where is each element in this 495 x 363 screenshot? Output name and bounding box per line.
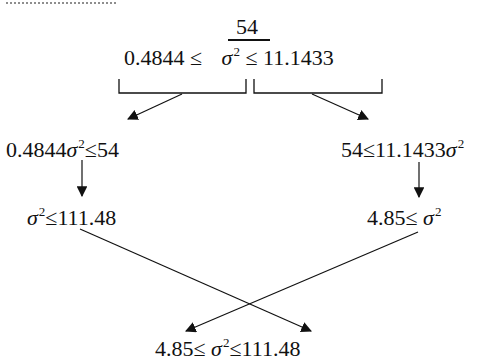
arrow-left-branch (128, 94, 182, 119)
sigma-symbol: σ (211, 336, 222, 361)
sigma-symbol: σ (27, 205, 38, 230)
right-step1-expression: 54≤11.1433σ2 (341, 137, 464, 161)
arrow-right-branch (312, 94, 368, 119)
result-expression: 4.85≤ σ2≤111.48 (155, 336, 300, 360)
sigma-symbol: σ (446, 137, 457, 162)
left-step1-expression: 0.4844σ2≤54 (6, 137, 119, 161)
left-bracket (119, 79, 246, 93)
sigma-symbol: σ (67, 137, 78, 162)
arrow-left-to-result (80, 229, 311, 331)
arrow-right-to-result (186, 232, 418, 331)
right-bracket (254, 79, 382, 93)
connector-lines (0, 0, 495, 363)
sigma-symbol: σ (423, 205, 434, 230)
right-step2-expression: 4.85≤ σ2 (367, 205, 441, 229)
left-step2-expression: σ2≤111.48 (27, 205, 116, 229)
